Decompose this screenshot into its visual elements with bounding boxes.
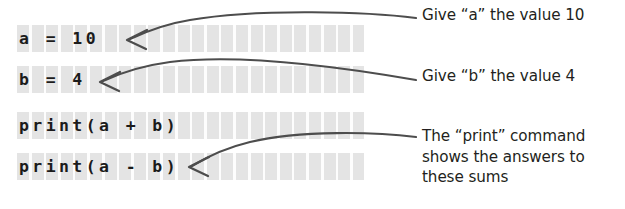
annotation-print-command: The “print” command shows the answers to…: [422, 126, 622, 188]
code-line-print-difference: print(a - b): [17, 153, 364, 180]
code-line-text: print(a + b): [19, 112, 179, 139]
code-block: a = 10 b = 4 print(a + b) print(a - b): [0, 0, 380, 209]
code-line-assign-b: b = 4: [17, 66, 364, 93]
annotation-assign-b: Give “b” the value 4: [422, 66, 575, 87]
annotation-assign-a: Give “a” the value 10: [422, 5, 584, 26]
code-line-print-sum: print(a + b): [17, 112, 364, 139]
code-line-text: print(a - b): [19, 153, 179, 180]
code-line-text: a = 10: [19, 25, 99, 52]
code-annotation-figure: a = 10 b = 4 print(a + b) print(a - b): [0, 0, 625, 209]
code-line-text: b = 4: [19, 66, 86, 93]
code-line-assign-a: a = 10: [17, 25, 364, 52]
